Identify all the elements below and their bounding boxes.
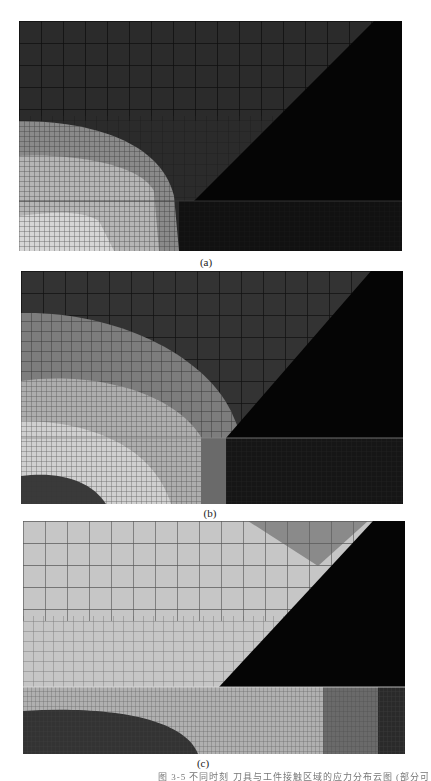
fem-mesh-image-b — [21, 271, 403, 504]
panel-c-fem-contour — [23, 521, 405, 754]
figure-caption: 图 3-5 不同时刻 刀具与工件接触区域的应力分布云图 (部分可见) — [158, 770, 428, 781]
panel-b-label: (b) — [190, 507, 230, 519]
fem-mesh-image-c — [23, 521, 405, 754]
panel-a-label: (a) — [186, 256, 226, 268]
fem-mesh-image-a — [19, 21, 402, 251]
panel-b-fem-contour — [21, 271, 403, 504]
panel-a-fem-contour — [19, 21, 402, 251]
panel-c-label: (c) — [183, 757, 223, 769]
